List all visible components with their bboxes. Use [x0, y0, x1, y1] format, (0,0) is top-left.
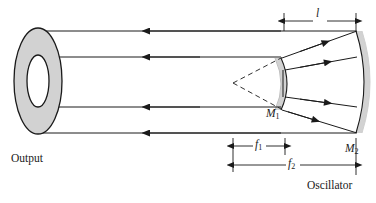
mirror-m2-label: M2: [345, 143, 359, 156]
focal-f2-subscript: 2: [291, 162, 295, 171]
mirror-m2-letter: M: [345, 142, 355, 154]
output-label: Output: [11, 153, 43, 165]
annulus-inner-ellipse: [27, 55, 49, 107]
oscillator-label: Oscillator: [307, 180, 352, 192]
focal-f2-label: f2: [288, 158, 295, 171]
mirror-m1-letter: M: [266, 107, 276, 119]
focal-f1-subscript: 1: [258, 143, 262, 152]
cavity-ray-2-arrow: [300, 63, 324, 67]
length-l-label: l: [316, 8, 319, 20]
figure-canvas: [0, 0, 376, 203]
output-annulus: [14, 28, 62, 134]
mirror-m1-label: M1: [266, 108, 280, 121]
focal-f1-label: f1: [255, 139, 262, 152]
mirror-m2-backing: [356, 31, 370, 133]
virtual-focus-cone: [233, 58, 282, 110]
cavity-ray-1-arrow: [300, 44, 322, 52]
optical-resonator-figure: Output Oscillator M1 M2 l f1 f2: [0, 0, 376, 203]
mirror-m1-subscript: 1: [276, 112, 280, 121]
dashed-ray-lower: [233, 83, 282, 110]
dimension-l: [284, 13, 356, 31]
cavity-ray-3-arrow: [300, 99, 324, 102]
mirror-m1: [275, 58, 287, 110]
output-beam-rays: [38, 31, 281, 133]
mirror-m2: [356, 31, 370, 133]
dashed-ray-upper: [233, 58, 282, 84]
cavity-ray-4-arrow: [288, 112, 312, 119]
mirror-m2-subscript: 2: [355, 147, 359, 156]
cavity-expanding-rays: [282, 31, 357, 133]
